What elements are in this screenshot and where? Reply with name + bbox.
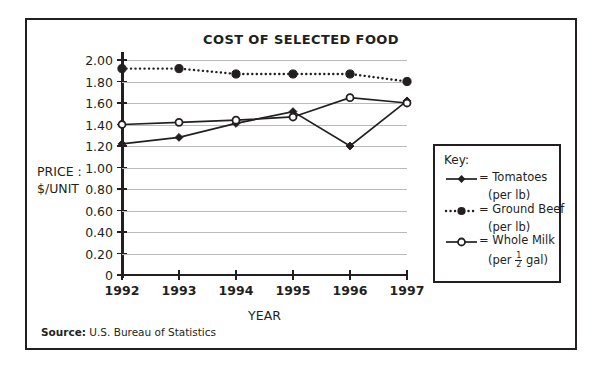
legend-box: Key: = Tomatoes(per lb)= Ground Beef(per… xyxy=(433,144,561,283)
data-point-marker xyxy=(175,134,183,142)
source-label: Source: xyxy=(41,326,86,338)
y-tick-label: 1.40 xyxy=(85,117,113,132)
x-tick-label: 1992 xyxy=(105,283,140,298)
legend-item-label: = Tomatoes xyxy=(479,171,547,185)
x-tick-label: 1996 xyxy=(333,283,368,298)
y-tick-label: 0.80 xyxy=(85,182,113,197)
data-point-marker xyxy=(232,70,240,78)
data-point-marker xyxy=(404,100,411,107)
y-axis-title: PRICE : $/UNIT xyxy=(37,163,82,197)
y-tick-label: 1.60 xyxy=(85,96,113,111)
series-line xyxy=(122,69,407,82)
legend-item-sublabel: (per lb) xyxy=(488,189,559,203)
legend-item-label: = Whole Milk xyxy=(479,234,555,248)
legend-item[interactable]: = Whole Milk xyxy=(444,234,559,249)
chart-title: COST OF SELECTED FOOD xyxy=(27,32,575,47)
source-text: U.S. Bureau of Statistics xyxy=(89,326,216,338)
legend-item-sublabel: (per lb) xyxy=(488,221,559,235)
legend-item-sublabel: (per 12 gal) xyxy=(488,252,559,269)
legend-marker-icon xyxy=(444,235,479,249)
x-tick-label: 1997 xyxy=(390,283,425,298)
plot-area: 00.200.400.600.801.001.201.401.601.802.0… xyxy=(122,60,407,275)
data-point-marker xyxy=(175,65,183,73)
data-point-marker xyxy=(403,77,411,85)
data-point-marker xyxy=(176,119,183,126)
legend-item[interactable]: = Tomatoes xyxy=(444,171,559,186)
series-layer xyxy=(122,60,407,275)
y-tick-label: 0.20 xyxy=(85,246,113,261)
data-point-marker xyxy=(289,70,297,78)
fraction-one-half: 12 xyxy=(515,252,522,269)
legend-item[interactable]: = Ground Beef xyxy=(444,203,559,218)
data-point-marker xyxy=(118,65,126,73)
y-tick-label: 0 xyxy=(105,268,113,283)
legend-title: Key: xyxy=(444,153,559,167)
data-point-marker xyxy=(233,117,240,124)
y-axis-title-line2: $/UNIT xyxy=(37,180,82,197)
x-tick-label: 1995 xyxy=(276,283,311,298)
y-axis-title-line1: PRICE : xyxy=(37,163,82,180)
source-note: Source: U.S. Bureau of Statistics xyxy=(41,326,216,338)
y-tick-label: 0.40 xyxy=(85,225,113,240)
x-tick-label: 1993 xyxy=(162,283,197,298)
data-point-marker xyxy=(346,70,354,78)
legend-item-label: = Ground Beef xyxy=(479,203,564,217)
y-tick-label: 1.80 xyxy=(85,74,113,89)
x-axis-title: YEAR xyxy=(122,308,407,323)
y-tick-label: 0.60 xyxy=(85,203,113,218)
legend-marker-icon xyxy=(444,204,479,218)
x-tick-label: 1994 xyxy=(219,283,254,298)
data-point-marker xyxy=(119,121,126,128)
data-point-marker xyxy=(347,94,354,101)
chart-figure: COST OF SELECTED FOOD PRICE : $/UNIT 00.… xyxy=(25,18,577,350)
series-line xyxy=(122,98,407,125)
data-point-marker xyxy=(290,113,297,120)
y-tick-label: 1.00 xyxy=(85,160,113,175)
legend-items: = Tomatoes(per lb)= Ground Beef(per lb)=… xyxy=(444,171,559,269)
y-tick-label: 1.20 xyxy=(85,139,113,154)
legend-marker-icon xyxy=(444,172,479,186)
y-tick-label: 2.00 xyxy=(85,53,113,68)
